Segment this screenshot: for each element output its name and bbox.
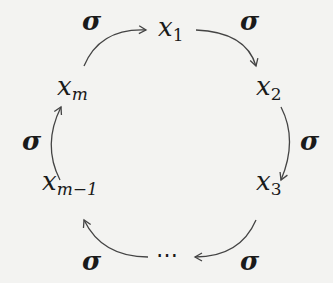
label-sigma-x1-x2: σ <box>240 8 259 34</box>
label-sigma-x3-dots: σ <box>240 248 259 274</box>
node-x1: x1 <box>158 14 184 44</box>
label-sigma-xm-x1: σ <box>82 8 101 34</box>
node-xm: xm <box>57 73 88 103</box>
node-x2: x2 <box>256 73 282 103</box>
label-sigma-dots-xm1: σ <box>82 248 101 274</box>
label-sigma-x2-x3: σ <box>300 128 319 154</box>
label-sigma-xm1-xm: σ <box>22 128 41 154</box>
node-xm-minus-1: xm−1 <box>42 168 98 198</box>
edge-x2-x3 <box>281 107 290 180</box>
node-ellipsis: ⋯ <box>156 244 179 266</box>
node-x3: x3 <box>256 168 282 198</box>
